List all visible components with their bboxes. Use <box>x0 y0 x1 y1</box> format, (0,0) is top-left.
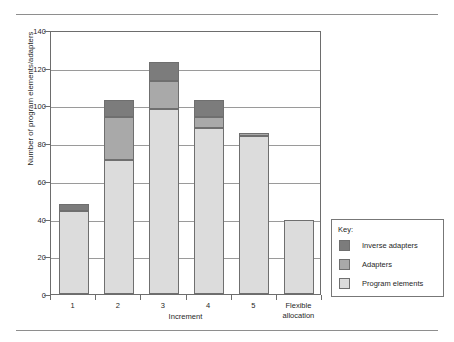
y-axis-tick-label: 100 <box>14 102 46 111</box>
legend-swatch <box>339 259 350 270</box>
bar-segment[interactable] <box>194 128 224 294</box>
bar-segment[interactable] <box>284 220 314 294</box>
bar-segment[interactable] <box>194 100 224 117</box>
y-axis-tick-label: 60 <box>14 177 46 186</box>
legend-title: Key: <box>338 225 353 234</box>
x-axis-tick-mark <box>140 295 141 300</box>
x-axis-tick-mark <box>95 295 96 300</box>
x-axis-title: Increment <box>50 312 321 321</box>
bar-segment[interactable] <box>149 81 179 109</box>
bar-segment[interactable] <box>149 62 179 81</box>
legend-swatch <box>339 240 350 251</box>
bar-group[interactable] <box>239 30 269 294</box>
legend-entry[interactable]: Inverse adapters <box>338 239 440 253</box>
bar-segment[interactable] <box>59 204 89 212</box>
bar-segment[interactable] <box>59 211 89 294</box>
y-axis-tick-label: 40 <box>14 215 46 224</box>
y-axis-tick-label: 120 <box>14 64 46 73</box>
x-axis-tick-mark <box>186 295 187 300</box>
legend-box: Key: Inverse adaptersAdaptersProgram ele… <box>331 219 444 297</box>
x-axis-tick-mark <box>231 295 232 300</box>
legend-entry[interactable]: Adapters <box>338 258 440 272</box>
y-axis-tick-label: 80 <box>14 140 46 149</box>
bar-segment[interactable] <box>104 117 134 160</box>
legend-entry[interactable]: Program elements <box>338 277 440 291</box>
legend-swatch <box>339 278 350 289</box>
legend-label: Program elements <box>362 279 423 288</box>
plot-area <box>50 31 321 295</box>
x-axis-tick-mark <box>321 295 322 300</box>
x-axis-tick-label-line: Flexible <box>268 301 328 311</box>
bar-segment[interactable] <box>104 100 134 117</box>
bar-group[interactable] <box>284 30 314 294</box>
bar-segment[interactable] <box>239 133 269 136</box>
stacked-bar-chart: Number of program elements/adapters 0204… <box>0 0 454 342</box>
y-axis-tick-label: 20 <box>14 253 46 262</box>
bar-segment[interactable] <box>104 160 134 294</box>
bar-segment[interactable] <box>149 109 179 294</box>
bars-layer <box>51 32 320 294</box>
bar-segment[interactable] <box>239 136 269 294</box>
x-axis-tick-mark <box>50 295 51 300</box>
bar-group[interactable] <box>194 30 224 294</box>
y-axis-tick-label: 140 <box>14 27 46 36</box>
bar-group[interactable] <box>149 30 179 294</box>
y-axis-tick-label: 0 <box>14 291 46 300</box>
bar-group[interactable] <box>59 30 89 294</box>
bar-segment[interactable] <box>194 117 224 128</box>
legend-label: Inverse adapters <box>362 241 418 250</box>
bar-group[interactable] <box>104 30 134 294</box>
legend-label: Adapters <box>362 260 392 269</box>
x-axis-tick-mark <box>276 295 277 300</box>
